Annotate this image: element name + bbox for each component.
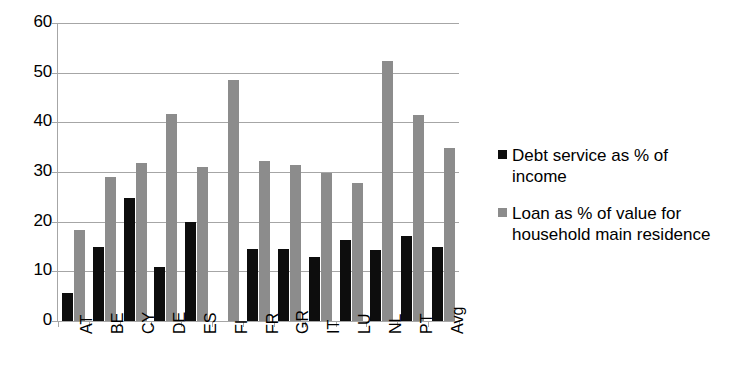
x-tick-mark bbox=[58, 321, 59, 327]
x-tick-label: Avg bbox=[450, 307, 466, 334]
legend-label: Debt service as % of income bbox=[512, 145, 727, 187]
x-tick-label: FR bbox=[265, 313, 281, 334]
bar-group bbox=[366, 23, 397, 321]
x-tick-label: DE bbox=[172, 312, 188, 334]
bar bbox=[413, 115, 424, 321]
y-tick-label: 30 bbox=[14, 162, 52, 179]
bar-group bbox=[181, 23, 212, 321]
legend-swatch-gray bbox=[498, 208, 507, 217]
bar bbox=[290, 165, 301, 321]
bar bbox=[105, 177, 116, 321]
bar-group bbox=[120, 23, 151, 321]
bar bbox=[382, 61, 393, 321]
bar-group bbox=[212, 23, 243, 321]
plot-area bbox=[58, 23, 459, 321]
bar bbox=[136, 163, 147, 321]
y-tick-label: 60 bbox=[14, 13, 52, 30]
y-tick-label: 10 bbox=[14, 261, 52, 278]
legend-label: Loan as % of value for household main re… bbox=[512, 203, 727, 245]
bar bbox=[247, 249, 258, 321]
y-axis-tick-labels: 6050403020100 bbox=[14, 10, 52, 340]
x-tick-label: GR bbox=[295, 310, 311, 334]
bar-group bbox=[305, 23, 336, 321]
bar-chart: 6050403020100 ATBECYDEESFIFRGRITLUNLPTAv… bbox=[0, 0, 746, 384]
x-tick-label: BE bbox=[110, 313, 126, 334]
bar bbox=[74, 230, 85, 321]
bar bbox=[228, 80, 239, 321]
x-tick-label: CY bbox=[141, 312, 157, 334]
bar-group bbox=[397, 23, 428, 321]
x-tick-label: AT bbox=[79, 315, 95, 334]
x-tick-label: IT bbox=[326, 320, 342, 334]
x-tick-label: FI bbox=[234, 320, 250, 334]
bar bbox=[62, 293, 73, 321]
legend-swatch-black bbox=[498, 150, 507, 159]
bar bbox=[124, 198, 135, 321]
bar bbox=[352, 183, 363, 321]
bar-group bbox=[274, 23, 305, 321]
bar-group bbox=[58, 23, 89, 321]
bar bbox=[370, 250, 381, 321]
x-tick-label: ES bbox=[203, 313, 219, 334]
bar bbox=[166, 114, 177, 321]
x-tick-label: PT bbox=[419, 314, 435, 334]
bar bbox=[93, 247, 104, 322]
bar-group bbox=[151, 23, 182, 321]
y-tick-label: 50 bbox=[14, 63, 52, 80]
bar bbox=[340, 240, 351, 321]
bar bbox=[278, 249, 289, 321]
legend-item[interactable]: Loan as % of value for household main re… bbox=[498, 203, 738, 245]
chart-legend: Debt service as % of incomeLoan as % of … bbox=[498, 145, 738, 261]
bar bbox=[197, 167, 208, 321]
legend-item[interactable]: Debt service as % of income bbox=[498, 145, 738, 187]
y-tick-label: 0 bbox=[14, 311, 52, 328]
y-tick-label: 40 bbox=[14, 112, 52, 129]
bar-group bbox=[336, 23, 367, 321]
y-tick-label: 20 bbox=[14, 212, 52, 229]
bar bbox=[259, 161, 270, 321]
bar bbox=[185, 222, 196, 321]
x-tick-label: NL bbox=[388, 314, 404, 334]
x-tick-label: LU bbox=[357, 314, 373, 334]
bar-group bbox=[243, 23, 274, 321]
bar bbox=[432, 247, 443, 322]
bar bbox=[444, 148, 455, 321]
bar-group bbox=[428, 23, 459, 321]
bar-group bbox=[89, 23, 120, 321]
bar bbox=[321, 173, 332, 322]
bar bbox=[401, 236, 412, 321]
